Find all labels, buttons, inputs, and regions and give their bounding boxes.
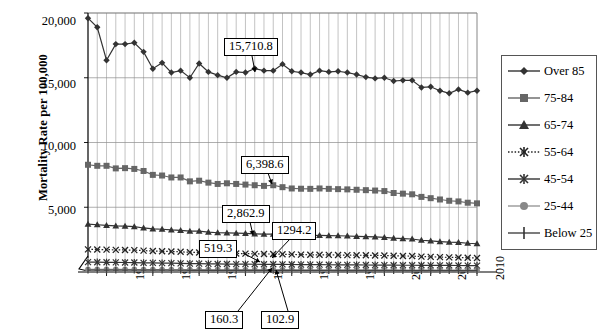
legend-marker-diamond-icon xyxy=(507,63,541,79)
callout-below25: 102.9 xyxy=(261,311,299,329)
legend-marker-asterisk-icon xyxy=(507,171,541,187)
callout-over85: 15,710.8 xyxy=(224,38,278,56)
callout-45-54: 519.3 xyxy=(199,240,237,258)
legend-label-65-74: 65-74 xyxy=(541,118,573,133)
legend-item-25-44[interactable]: 25-44 xyxy=(507,196,595,216)
callout-65-74: 2,862.9 xyxy=(222,205,270,223)
legend-item-65-74[interactable]: 65-74 xyxy=(507,115,595,135)
legend-label-75-84: 75-84 xyxy=(541,91,573,106)
legend-item-below-25[interactable]: Below 25 xyxy=(507,223,595,243)
legend-label-25-44: 25-44 xyxy=(541,199,573,214)
legend-marker-circle-icon xyxy=(507,198,541,214)
mortality-rate-chart: Mortality Rate per 100,000 20,000 15,000… xyxy=(0,0,602,335)
legend-marker-plus-icon xyxy=(507,225,541,241)
legend-marker-x-icon xyxy=(507,144,541,160)
callout-55-64: 1294.2 xyxy=(272,222,316,240)
callout-75-84: 6,398.6 xyxy=(241,156,289,174)
legend-label-below-25: Below 25 xyxy=(541,226,592,241)
legend-item-55-64[interactable]: 55-64 xyxy=(507,142,595,162)
legend-item-75-84[interactable]: 75-84 xyxy=(507,88,595,108)
legend-label-over-85: Over 85 xyxy=(541,64,585,79)
legend-marker-triangle-icon xyxy=(507,117,541,133)
legend-item-45-54[interactable]: 45-54 xyxy=(507,169,595,189)
legend-label-55-64: 55-64 xyxy=(541,145,573,160)
legend-label-45-54: 45-54 xyxy=(541,172,573,187)
callout-25-44: 160.3 xyxy=(205,311,243,329)
legend-marker-square-icon xyxy=(507,90,541,106)
legend-item-over-85[interactable]: Over 85 xyxy=(507,61,595,81)
legend: Over 85 75-84 65-74 55-64 45-54 25-44 Be… xyxy=(501,55,597,250)
